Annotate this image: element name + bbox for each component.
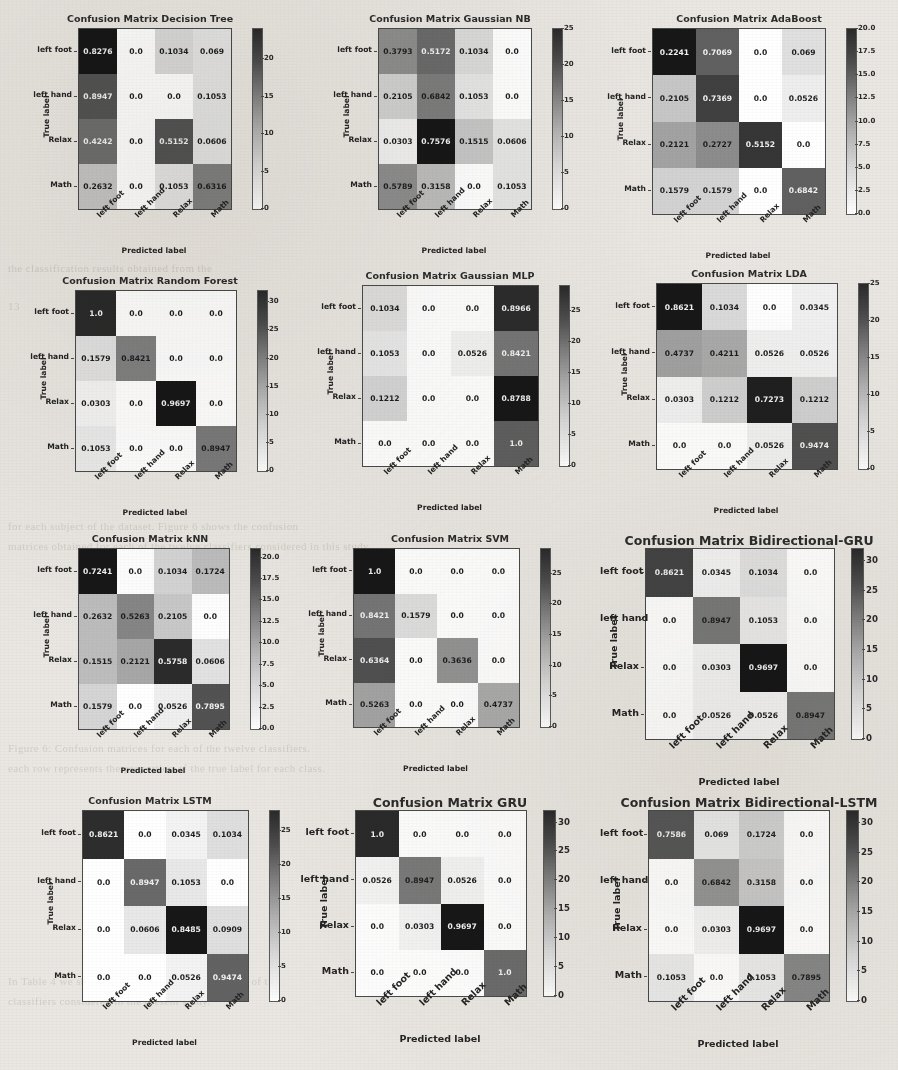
heatmap-cell: 0.0526 xyxy=(441,857,484,903)
chart-title: Confusion Matrix Gaussian NB xyxy=(300,13,600,24)
colorbar-tick-mark xyxy=(568,434,571,435)
chart-title: Confusion Matrix Decision Tree xyxy=(0,13,300,24)
heatmap-cell: 0.0 xyxy=(117,119,155,164)
heatmap-cell: 0.0606 xyxy=(192,639,230,684)
colorbar-tick-mark xyxy=(278,864,281,865)
heatmap-cell: 0.0 xyxy=(646,597,693,645)
heatmap-plot-area: 1.00.00.00.00.15790.84210.00.00.03030.00… xyxy=(75,290,237,472)
heatmap-cell: 0.0 xyxy=(83,859,124,907)
colorbar-tick-label: 5.0 xyxy=(262,681,274,689)
y-tick-label: Math xyxy=(600,184,646,193)
confusion-matrix-figure-grid: Confusion Matrix Decision Tree0.82760.00… xyxy=(0,0,898,1070)
heatmap-cell: 0.0345 xyxy=(166,811,207,859)
heatmap-cell: 0.1212 xyxy=(792,377,837,423)
y-tick-mark xyxy=(78,929,81,930)
heatmap-cell: 0.1579 xyxy=(76,336,116,381)
heatmap-cell: 0.0526 xyxy=(792,330,837,376)
heatmap-cell: 0.8788 xyxy=(494,376,538,421)
heatmap-cell: 0.1034 xyxy=(455,29,493,74)
colorbar-tick-mark xyxy=(855,74,858,75)
colorbar-tick-label: 20.0 xyxy=(858,24,875,32)
colorbar-tick-label: 0 xyxy=(281,996,286,1004)
figure-panel: Confusion Matrix Gaussian NB0.37930.5172… xyxy=(300,0,600,255)
colorbar-tick-mark xyxy=(857,1000,860,1001)
y-tick-label: left foot xyxy=(300,45,372,54)
colorbar-tick-label: 10 xyxy=(264,129,274,137)
heatmap-cell: 0.1034 xyxy=(155,29,193,74)
heatmap-cell: 0.0 xyxy=(117,74,155,119)
y-tick-label: left foot xyxy=(0,45,72,54)
y-axis-title: True label xyxy=(39,349,48,409)
colorbar-tick-label: 20 xyxy=(264,54,274,62)
colorbar-tick-mark xyxy=(561,100,564,101)
heatmap-cell: 0.5263 xyxy=(117,594,155,639)
colorbar-tick-mark xyxy=(857,941,860,942)
heatmap-cell: 0.9697 xyxy=(739,906,784,954)
heatmap-cell: 0.1724 xyxy=(192,549,230,594)
colorbar-tick-mark xyxy=(855,213,858,214)
y-tick-mark xyxy=(374,186,377,187)
y-tick-label: left hand xyxy=(300,90,372,99)
y-tick-label: left foot xyxy=(0,307,69,316)
colorbar-tick-mark xyxy=(266,414,269,415)
colorbar-tick-label: 15 xyxy=(558,903,570,913)
colorbar xyxy=(846,810,859,1002)
figure-panel: Confusion Matrix Bidirectional-GRU0.8621… xyxy=(600,510,898,770)
heatmap-cell: 0.0909 xyxy=(207,906,248,954)
heatmap-cell: 0.1579 xyxy=(395,594,436,639)
y-tick-label: Math xyxy=(0,700,72,709)
y-tick-label: left hand xyxy=(600,612,639,623)
heatmap-cell: 0.8421 xyxy=(354,594,395,639)
y-tick-mark xyxy=(374,141,377,142)
heatmap-cell: 0.0 xyxy=(484,811,527,857)
heatmap-cell: 0.0 xyxy=(784,906,829,954)
heatmap-cell: 0.0 xyxy=(156,291,196,336)
heatmap-cell: 0.9697 xyxy=(441,904,484,950)
y-tick-label: Relax xyxy=(0,135,72,144)
y-tick-label: left foot xyxy=(300,565,347,574)
colorbar-tick-label: 20 xyxy=(870,316,880,324)
heatmap-plot-area: 1.00.00.00.00.05260.89470.05260.00.00.03… xyxy=(355,810,527,997)
colorbar-tick-mark xyxy=(266,329,269,330)
y-tick-mark xyxy=(351,926,354,927)
colorbar-tick-mark xyxy=(259,578,262,579)
colorbar-tick-label: 20 xyxy=(552,599,562,607)
figure-panel: Confusion Matrix GRU1.00.00.00.00.05260.… xyxy=(300,770,600,1070)
heatmap-plot-area: 0.37930.51720.10340.00.21050.68420.10530… xyxy=(378,28,532,210)
colorbar-tick-mark xyxy=(261,96,264,97)
heatmap-cell: 0.2121 xyxy=(653,122,696,168)
x-axis-title: Predicted label xyxy=(82,1038,247,1047)
y-tick-mark xyxy=(78,881,81,882)
colorbar-tick-label: 0 xyxy=(571,461,576,469)
heatmap-cell: 0.069 xyxy=(782,29,825,75)
heatmap-cell: 0.0526 xyxy=(356,857,399,903)
heatmap-cell: 0.0 xyxy=(484,857,527,903)
heatmap-cell: 0.0 xyxy=(484,904,527,950)
colorbar-tick-label: 20 xyxy=(564,60,574,68)
colorbar-tick-mark xyxy=(867,431,870,432)
colorbar-tick-mark xyxy=(857,822,860,823)
y-tick-mark xyxy=(74,51,77,52)
y-tick-label: Relax xyxy=(600,660,639,671)
colorbar-tick-mark xyxy=(554,937,557,938)
heatmap-cell: 0.6842 xyxy=(694,859,739,907)
heatmap-cell: 0.5152 xyxy=(155,119,193,164)
heatmap-cell: 0.0 xyxy=(784,859,829,907)
colorbar-tick-label: 5 xyxy=(558,961,564,971)
y-axis-title: True label xyxy=(611,875,622,935)
heatmap-cell: 0.1212 xyxy=(702,377,747,423)
heatmap-cell: 0.0 xyxy=(117,29,155,74)
heatmap-cell: 0.3636 xyxy=(437,638,478,683)
y-tick-mark xyxy=(641,572,644,573)
y-tick-mark xyxy=(349,704,352,705)
heatmap-cell: 0.0526 xyxy=(747,330,792,376)
chart-title: Confusion Matrix Bidirectional-GRU xyxy=(600,533,898,548)
colorbar-tick-label: 7.5 xyxy=(858,140,870,148)
colorbar-tick-mark xyxy=(278,1000,281,1001)
y-tick-mark xyxy=(74,141,77,142)
colorbar-tick-mark xyxy=(266,442,269,443)
colorbar-tick-mark xyxy=(549,665,552,666)
y-tick-mark xyxy=(641,619,644,620)
heatmap-cell: 0.0303 xyxy=(379,119,417,164)
colorbar-tick-label: 0 xyxy=(870,464,875,472)
